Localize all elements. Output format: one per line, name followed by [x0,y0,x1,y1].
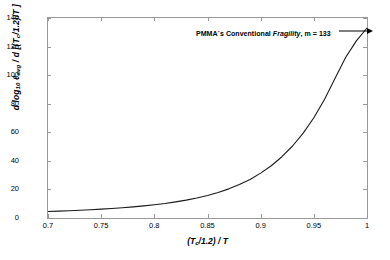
y-tick-mark [47,161,51,162]
y-tick-label: 40 [11,157,19,165]
x-axis-title-text: (Tc/1.2) / T [187,236,228,246]
y-axis-title: d log10 ℓavg / d [(Tc/1.2)/T ] [11,0,21,152]
y-tick-label: 0 [15,214,19,222]
annotation-suffix: , m = 133 [301,30,331,37]
y-tick-label: 20 [11,185,19,193]
x-tick-mark [208,17,209,21]
y-tick-mark [363,104,367,105]
x-tick-label: 0.8 [134,222,174,230]
y-tick-mark [363,161,367,162]
figure-canvas: 0.70.750.80.850.90.951 02040608010012014… [0,0,390,260]
y-tick-mark [363,75,367,76]
x-tick-label: 0.85 [188,222,228,230]
x-tick-mark [261,17,262,21]
x-tick-label: 0.9 [241,222,281,230]
x-tick-mark [314,214,315,218]
x-tick-mark [154,214,155,218]
y-tick-mark [47,18,51,19]
annotation-italic: Fragility [273,30,301,37]
y-tick-mark [363,218,367,219]
x-tick-mark [101,17,102,21]
y-tick-mark [47,75,51,76]
fragility-annotation: PMMA´s Conventional Fragility, m = 133 [196,27,373,37]
x-tick-mark [208,214,209,218]
x-tick-label: 1 [347,222,387,230]
y-axis-title-text: d log10 ℓavg / d [(Tc/1.2)/T ] [11,4,21,110]
y-tick-mark [47,189,51,190]
annotation-prefix: PMMA´s Conventional [196,30,273,37]
data-curve [48,18,367,218]
y-tick-mark [47,104,51,105]
x-tick-mark [367,214,368,218]
x-tick-mark [367,17,368,21]
y-tick-mark [47,47,51,48]
x-tick-label: 0.75 [81,222,121,230]
x-tick-mark [314,17,315,21]
y-tick-mark [47,218,51,219]
x-tick-label: 0.7 [28,222,68,230]
x-tick-label: 0.95 [294,222,334,230]
y-tick-mark [363,47,367,48]
x-tick-mark [154,17,155,21]
x-tick-mark [261,214,262,218]
y-tick-mark [47,132,51,133]
x-axis-title: (Tc/1.2) / T [47,236,368,246]
x-tick-mark [101,214,102,218]
y-tick-mark [363,18,367,19]
annotation-arrow-icon [339,27,373,35]
y-tick-mark [363,132,367,133]
plot-area [47,17,368,219]
y-tick-mark [363,189,367,190]
